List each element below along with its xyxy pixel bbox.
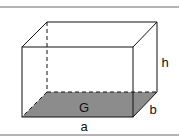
label-length: a bbox=[80, 119, 88, 134]
label-base: G bbox=[79, 100, 89, 115]
label-height: h bbox=[161, 55, 168, 70]
cuboid-diagram: G a b h bbox=[0, 0, 179, 137]
label-depth: b bbox=[149, 102, 156, 117]
